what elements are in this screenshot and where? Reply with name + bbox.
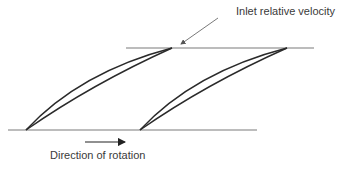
inlet-velocity-arrow: [181, 18, 218, 44]
direction-of-rotation-label: Direction of rotation: [50, 149, 145, 161]
blade-1: [26, 48, 172, 130]
blade-2: [140, 48, 287, 130]
inlet-relative-velocity-label: Inlet relative velocity: [236, 5, 335, 17]
blade-cascade-diagram: [0, 0, 348, 169]
